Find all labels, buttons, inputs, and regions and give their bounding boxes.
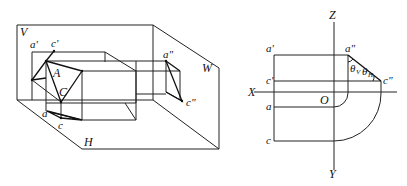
label-a: a	[42, 107, 48, 119]
label-w-plane: W	[202, 61, 213, 75]
label-c-double-prime: c"	[383, 74, 393, 86]
label-c: c	[58, 119, 63, 131]
three-view-projection: Z X Y O a' c' a c a" c" θ V θ H	[247, 8, 397, 181]
projection-diagram: V H W a' c' A C a c a" c" Z X Y O a' c' …	[0, 0, 407, 186]
v-plane	[17, 25, 153, 100]
label-a-double-prime: a"	[163, 48, 174, 60]
label-c: c	[266, 134, 271, 146]
label-a-prime: a'	[266, 42, 275, 54]
label-c-prime: c'	[266, 74, 274, 86]
label-a: a	[266, 100, 272, 112]
label-theta-h-subscript: H	[367, 71, 374, 79]
label-origin: O	[320, 93, 329, 107]
label-a-prime: a'	[30, 38, 39, 50]
label-y-axis: Y	[329, 167, 337, 181]
w-plane	[153, 25, 219, 149]
label-v-plane: V	[20, 25, 29, 39]
label-a-double-prime: a"	[345, 42, 356, 54]
label-A: A	[52, 66, 61, 80]
label-x-axis: X	[247, 85, 256, 99]
label-c-prime: c'	[51, 37, 59, 49]
label-C: C	[59, 85, 68, 99]
label-h-plane: H	[83, 135, 94, 149]
label-theta-v-subscript: V	[356, 68, 361, 76]
label-z-axis: Z	[329, 8, 336, 22]
label-c-double-prime: c"	[186, 96, 196, 108]
pictorial-view: V H W a' c' A C a c a" c"	[17, 25, 219, 149]
